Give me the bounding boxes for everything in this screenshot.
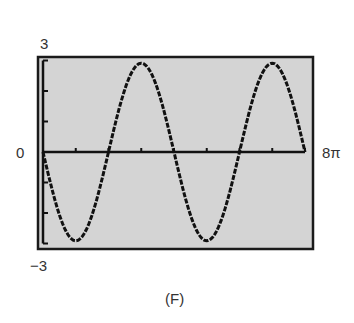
graph-canvas [0,0,354,323]
y-min-label: −3 [30,258,47,273]
x-min-label: 0 [16,145,24,160]
y-max-label: 3 [40,36,48,51]
figure-caption: (F) [165,291,184,306]
x-max-label: 8π [322,145,341,160]
